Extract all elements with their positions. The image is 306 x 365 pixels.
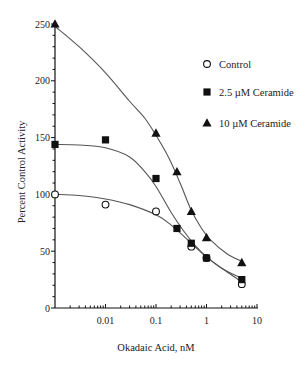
- data-point: [238, 276, 245, 283]
- legend-marker-icon: [203, 88, 210, 95]
- fit-curve: [55, 26, 242, 261]
- x-tick-label: 0.01: [97, 315, 115, 326]
- data-point: [52, 191, 59, 198]
- legend-marker-icon: [204, 61, 211, 68]
- legend-item: 2.5 µM Ceramide: [203, 87, 294, 98]
- legend-marker-icon: [202, 118, 211, 126]
- y-tick-label: 100: [35, 189, 50, 200]
- fit-curves: [55, 26, 242, 282]
- y-tick-label: 200: [35, 75, 50, 86]
- y-tick-label: 0: [45, 303, 50, 314]
- data-point: [202, 233, 211, 241]
- data-point: [51, 141, 58, 148]
- legend-item: 10 µM Ceramide: [202, 118, 291, 129]
- data-point: [50, 19, 59, 27]
- data-point: [173, 225, 180, 232]
- data-point: [153, 208, 160, 215]
- y-axis: 050100150200250: [35, 19, 55, 314]
- y-axis-title: Percent Control Activity: [16, 120, 27, 223]
- x-axis-title: Okadaic Acid, nM: [117, 342, 195, 353]
- data-point: [203, 254, 210, 261]
- data-point: [237, 258, 246, 266]
- data-point: [102, 136, 109, 143]
- data-points: [50, 19, 246, 287]
- legend-label: Control: [219, 59, 251, 70]
- y-tick-label: 250: [35, 19, 50, 30]
- data-point: [187, 207, 196, 215]
- dose-response-chart: 050100150200250 0.010.1110 Control2.5 µM…: [0, 0, 306, 365]
- data-point: [152, 175, 159, 182]
- x-axis: 0.010.1110: [55, 304, 262, 326]
- legend: Control2.5 µM Ceramide10 µM Ceramide: [202, 59, 294, 129]
- legend-label: 2.5 µM Ceramide: [219, 87, 294, 98]
- x-tick-label: 0.1: [150, 315, 163, 326]
- y-tick-label: 150: [35, 132, 50, 143]
- data-point: [102, 201, 109, 208]
- legend-item: Control: [204, 59, 252, 70]
- y-tick-label: 50: [40, 246, 50, 257]
- x-tick-label: 10: [252, 315, 262, 326]
- legend-label: 10 µM Ceramide: [219, 118, 291, 129]
- x-tick-label: 1: [204, 315, 209, 326]
- data-point: [188, 240, 195, 247]
- fit-curve: [55, 194, 242, 281]
